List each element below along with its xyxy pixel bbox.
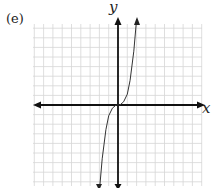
right-arrow-icon	[197, 102, 205, 109]
down-arrow-icon	[115, 184, 122, 188]
up-arrow-icon	[115, 17, 122, 25]
curve-start-arrow-icon	[96, 184, 102, 188]
curve-end-arrow-icon	[134, 17, 140, 25]
cubic-graph	[0, 0, 214, 188]
